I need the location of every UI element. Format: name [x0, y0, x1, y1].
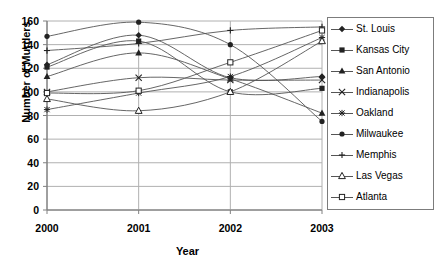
legend-item-label: Milwaukee: [356, 129, 403, 139]
legend-line-swatch: [331, 92, 353, 93]
legend-marker-triangle: [336, 65, 348, 77]
legend: St. LouisKansas CitySan AntonioIndianapo…: [327, 17, 434, 210]
series-line: [47, 41, 322, 111]
marker-square: [44, 64, 49, 69]
marker-plus: [339, 152, 345, 158]
marker-diamond: [339, 26, 345, 32]
marker-circle: [339, 131, 344, 136]
marker-circle: [228, 42, 233, 47]
series-line: [47, 41, 322, 95]
marker-triangle: [339, 67, 346, 73]
legend-item-kansas-city[interactable]: Kansas City: [331, 41, 409, 59]
marker-triangle-open: [44, 95, 51, 101]
marker-circle: [136, 20, 141, 25]
legend-line-swatch: [331, 71, 353, 72]
legend-item-label: San Antonio: [356, 66, 410, 76]
marker-asterisk: [44, 106, 50, 112]
marker-circle: [44, 34, 49, 39]
legend-item-label: Kansas City: [356, 45, 409, 55]
legend-line-swatch: [331, 113, 353, 114]
marker-diamond: [319, 73, 325, 79]
legend-item-memphis[interactable]: Memphis: [331, 146, 397, 164]
legend-marker-circle: [336, 128, 348, 140]
legend-line-swatch: [331, 176, 353, 177]
marker-plus: [227, 27, 233, 33]
legend-item-label: Atlanta: [356, 192, 387, 202]
series-st-louis: [44, 32, 325, 81]
marker-asterisk: [227, 73, 233, 79]
chart-container: Number of Murders Year 02040608010012014…: [0, 0, 436, 270]
legend-marker-triangle-open: [336, 170, 348, 182]
marker-plus: [44, 47, 50, 53]
legend-marker-x-cross: [336, 86, 348, 98]
legend-item-atlanta[interactable]: Atlanta: [331, 188, 387, 206]
legend-item-las-vegas[interactable]: Las Vegas: [331, 167, 403, 185]
marker-square-open: [228, 60, 233, 65]
marker-square: [319, 86, 324, 91]
legend-marker-asterisk: [336, 107, 348, 119]
legend-line-swatch: [331, 50, 353, 51]
legend-item-label: St. Louis: [356, 24, 395, 34]
marker-square-open: [44, 90, 49, 95]
legend-marker-square: [336, 44, 348, 56]
marker-square-open: [136, 88, 141, 93]
legend-item-label: Memphis: [356, 150, 397, 160]
legend-line-swatch: [331, 134, 353, 135]
legend-marker-diamond: [336, 23, 348, 35]
marker-square-open: [319, 28, 324, 33]
legend-marker-plus: [336, 149, 348, 161]
marker-diamond: [135, 32, 141, 38]
legend-item-label: Las Vegas: [356, 171, 403, 181]
series-las-vegas: [44, 37, 326, 113]
legend-line-swatch: [331, 29, 353, 30]
legend-line-swatch: [331, 197, 353, 198]
marker-x-cross: [339, 89, 345, 95]
marker-asterisk: [339, 110, 345, 116]
series-milwaukee: [44, 20, 324, 124]
marker-square-open: [339, 194, 344, 199]
legend-item-indianapolis[interactable]: Indianapolis: [331, 83, 409, 101]
series-line: [47, 38, 322, 110]
legend-item-label: Oakland: [356, 108, 393, 118]
marker-triangle: [135, 49, 142, 55]
legend-item-milwaukee[interactable]: Milwaukee: [331, 125, 403, 143]
marker-square: [339, 47, 344, 52]
legend-item-label: Indianapolis: [356, 87, 409, 97]
marker-circle: [319, 119, 324, 124]
legend-item-san-antonio[interactable]: San Antonio: [331, 62, 410, 80]
legend-line-swatch: [331, 155, 353, 156]
series-oakland: [44, 34, 325, 112]
legend-marker-square-open: [336, 191, 348, 203]
legend-item-oakland[interactable]: Oakland: [331, 104, 393, 122]
series-line: [47, 35, 322, 80]
legend-item-st-louis[interactable]: St. Louis: [331, 20, 395, 38]
marker-triangle-open: [339, 172, 346, 178]
